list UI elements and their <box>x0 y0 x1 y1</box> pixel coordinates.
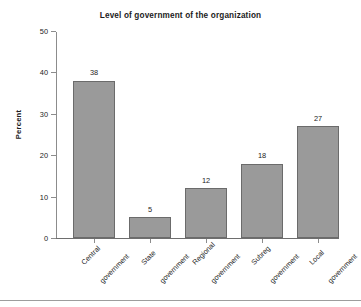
bar-central-government[interactable] <box>73 81 115 238</box>
x-axis-label-line2: government <box>268 253 301 286</box>
y-tick-label-30: 30 <box>8 109 48 118</box>
chart-title: Level of government of the organization <box>0 11 361 20</box>
bar-local-government[interactable] <box>297 126 339 238</box>
y-tick-label-10: 10 <box>8 192 48 201</box>
x-axis-label-line1: Local <box>308 234 341 267</box>
x-axis-label-line2: government <box>326 253 359 286</box>
bar-value-state-government: 5 <box>129 205 171 214</box>
x-axis-label-line1: State <box>140 234 173 267</box>
x-axis-label-line2: government <box>158 253 191 286</box>
x-axis-label-line1: Regional <box>191 234 224 267</box>
plot-area <box>56 32 339 238</box>
bar-value-regional-government: 12 <box>185 176 227 185</box>
y-tick-label-40: 40 <box>8 68 48 77</box>
y-axis-title: Percent <box>14 95 23 155</box>
y-tick-label-20: 20 <box>8 151 48 160</box>
x-axis-label-line1: Subreg <box>250 234 283 267</box>
bar-value-local-government: 27 <box>297 114 339 123</box>
bar-value-subreg-government: 18 <box>241 151 283 160</box>
y-tick-label-50: 50 <box>8 27 48 36</box>
bar-chart-figure: Level of government of the organization … <box>0 0 361 307</box>
bar-value-central-government: 38 <box>73 68 115 77</box>
x-axis-label-line2: government <box>98 253 131 286</box>
x-axis-label-line2: government <box>209 253 242 286</box>
x-axis-label-line1: Central <box>80 234 113 267</box>
page-edge-fill <box>0 301 361 307</box>
y-tick-label-0: 0 <box>8 234 48 243</box>
y-tick-0 <box>51 238 56 239</box>
